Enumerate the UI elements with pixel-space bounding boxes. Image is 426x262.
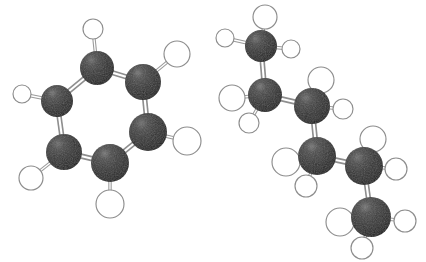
carbon-atom-hexane-C3: [294, 88, 330, 124]
hydrogen-atom-hexane-H1a: [253, 5, 277, 29]
carbon-atom-hexane-C4: [298, 137, 336, 175]
hydrogen-atom-benzene-H1: [83, 19, 103, 39]
hydrogen-atom-hexane-H1c: [282, 40, 300, 58]
carbon-atom-benzene-C2: [125, 64, 161, 100]
hydrogen-atom-hexane-H6c: [351, 237, 373, 259]
hydrogen-atom-hexane-H2b: [239, 113, 259, 133]
hydrogen-atom-hexane-H2a: [219, 85, 245, 111]
carbon-atom-benzene-C6: [41, 85, 73, 117]
carbon-atom-benzene-C4: [91, 144, 129, 182]
hydrogen-atom-benzene-H6: [13, 85, 31, 103]
hydrogen-atom-hexane-H1b: [216, 29, 234, 47]
hydrogen-atom-hexane-H6a: [326, 208, 354, 236]
carbon-atoms-layer: [41, 30, 391, 237]
molecular-model-figure: [0, 0, 426, 262]
hydrogen-atom-hexane-H5b: [385, 158, 407, 180]
carbon-atom-benzene-C1: [80, 51, 114, 85]
carbon-atom-hexane-C5: [345, 147, 383, 185]
hydrogen-atom-hexane-H6b: [394, 210, 416, 232]
carbon-atom-benzene-C5: [46, 134, 82, 170]
carbon-atom-benzene-C3: [129, 113, 167, 151]
hydrogen-atom-hexane-H4a: [272, 148, 300, 176]
carbon-atom-hexane-C1: [245, 30, 277, 62]
hydrogen-atom-hexane-H4b: [295, 175, 317, 197]
molecule-canvas: [0, 0, 426, 262]
hydrogen-atom-hexane-H3b: [333, 99, 353, 119]
hydrogen-atom-benzene-H4: [96, 190, 124, 218]
hydrogen-atom-benzene-H3: [173, 127, 201, 155]
carbon-atom-hexane-C2: [248, 78, 282, 112]
carbon-atom-hexane-C6: [351, 197, 391, 237]
hydrogen-atom-benzene-H2: [164, 41, 190, 67]
hydrogen-atom-benzene-H5: [19, 166, 43, 190]
